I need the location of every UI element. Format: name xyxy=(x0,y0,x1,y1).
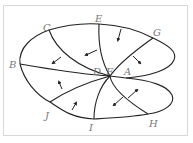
arrow-icon xyxy=(114,97,123,105)
curve-I-F xyxy=(94,76,110,119)
label-G: G xyxy=(153,27,161,38)
arrow-icon xyxy=(118,29,121,40)
flow-diagram: B C E G D F A J I H xyxy=(0,0,193,143)
label-F: F xyxy=(105,66,114,77)
label-C: C xyxy=(43,22,51,33)
label-A: A xyxy=(123,66,131,77)
arrow-icon xyxy=(86,50,97,55)
label-D: D xyxy=(92,66,101,77)
label-B: B xyxy=(8,59,16,70)
arrow-icon xyxy=(53,57,61,63)
curve-G-F xyxy=(110,38,153,76)
label-J: J xyxy=(43,110,50,121)
label-I: I xyxy=(88,122,94,133)
arrow-icon xyxy=(59,82,62,89)
arrow-icon xyxy=(133,56,140,63)
label-E: E xyxy=(94,13,103,24)
curve-H-F xyxy=(110,76,148,114)
label-H: H xyxy=(148,118,158,129)
arrow-icon xyxy=(128,90,137,98)
arrow-icon xyxy=(72,103,76,110)
lower-right-lobe xyxy=(126,78,173,114)
